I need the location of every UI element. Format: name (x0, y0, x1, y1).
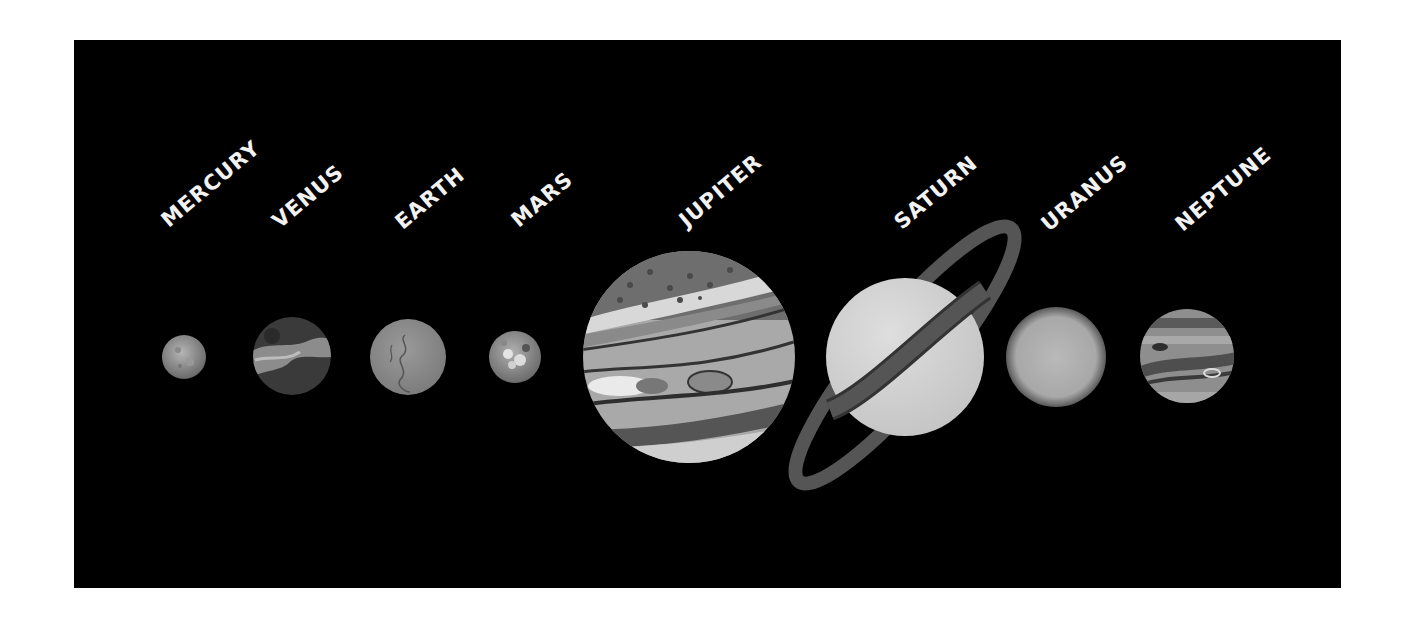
planets-illustration (0, 0, 1409, 617)
planet-venus (250, 317, 336, 395)
planet-saturn (771, 205, 1038, 504)
planet-jupiter (580, 250, 800, 470)
planet-earth (370, 319, 446, 395)
planet-mars (489, 331, 541, 383)
planet-mercury (162, 335, 206, 379)
planet-uranus (1006, 307, 1106, 407)
planet-neptune (1140, 309, 1236, 404)
